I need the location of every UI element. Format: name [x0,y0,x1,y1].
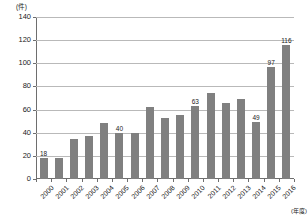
y-tick-label: 60 [23,106,31,114]
x-tick-mark [36,179,37,182]
x-tick-mark [248,179,249,182]
x-tick-mark [233,179,234,182]
x-tick-mark [279,179,280,182]
x-tick-label: 2005 [114,184,131,201]
x-tick-label: 2014 [251,184,268,201]
bar [176,115,184,179]
y-tick-label: 40 [23,129,31,137]
bar-value-label: 49 [252,114,259,121]
x-tick-mark [264,179,265,182]
bar [237,99,245,179]
x-tick-mark [142,179,143,182]
bar [131,133,139,179]
bar [146,107,154,179]
bar [207,93,215,179]
y-tick-label: 20 [23,152,31,160]
x-tick-label: 2006 [130,184,147,201]
bar [100,123,108,179]
bar [85,136,93,179]
x-tick-mark [157,179,158,182]
bar: 18 [40,158,48,179]
x-tick-label: 2004 [99,184,116,201]
bar [55,158,63,179]
y-tick-label: 120 [18,36,31,44]
bar [161,118,169,179]
x-tick-label: 2009 [175,184,192,201]
x-tick-label: 2002 [69,184,86,201]
bar [70,139,78,180]
x-tick-label: 2003 [84,184,101,201]
x-tick-label: 2007 [145,184,162,201]
x-tick-label: 2008 [160,184,177,201]
x-tick-mark [294,179,295,182]
x-tick-label: 2011 [206,184,222,200]
bar-value-label: 63 [192,98,199,105]
y-tick-label: 140 [18,13,31,21]
bar-chart: (件) 020406080100120140 1840634997116 200… [0,0,308,217]
x-tick-mark [66,179,67,182]
x-tick-mark [112,179,113,182]
x-tick-label: 2013 [236,184,253,201]
y-tick-label: 80 [23,82,31,90]
x-tick-mark [51,179,52,182]
bar-series: 1840634997116 [36,17,294,179]
x-tick-mark [127,179,128,182]
x-tick-mark [188,179,189,182]
x-tick-label: 2015 [266,184,283,201]
bar: 49 [252,122,260,179]
x-tick-label: 2000 [39,184,56,201]
y-axis-unit-label: (件) [16,3,27,11]
bar: 40 [115,133,123,179]
x-tick-label: 2016 [281,184,298,201]
x-tick-label: 2012 [221,184,238,201]
x-tick-mark [82,179,83,182]
bar: 63 [191,106,199,179]
x-tick-label: 2001 [54,184,71,201]
bar-value-label: 40 [116,125,123,132]
x-tick-mark [218,179,219,182]
x-tick-mark [203,179,204,182]
x-tick-label: 2010 [190,184,207,201]
bar [222,103,230,179]
x-tick-mark [97,179,98,182]
x-axis-unit-label: (年度) [291,208,307,215]
bar-value-label: 97 [268,59,275,66]
plot-area: 020406080100120140 1840634997116 2000200… [36,17,294,179]
bar: 116 [282,45,290,179]
y-tick-label: 0 [27,175,31,183]
bar-value-label: 18 [40,150,47,157]
bar-value-label: 116 [281,37,291,44]
bar: 97 [267,67,275,179]
x-tick-mark [173,179,174,182]
y-tick-label: 100 [18,59,31,67]
